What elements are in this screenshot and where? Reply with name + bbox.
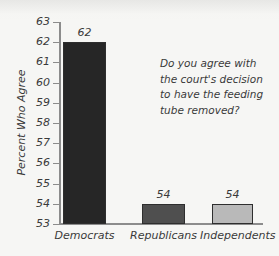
bar-democrats[interactable] [63, 42, 106, 224]
y-axis-tick-label-text: 63 [24, 16, 50, 27]
y-axis-tick-mark [53, 83, 61, 84]
y-axis-tick-label-text: 60 [24, 77, 50, 88]
y-axis-tick-mark [53, 62, 61, 63]
y-axis-tick-label: 61 [22, 56, 50, 67]
y-axis-tick-label-text: 55 [24, 178, 50, 189]
bar-chart-figure: Percent Who Agree 5354555657585960616263… [0, 0, 279, 256]
y-axis-tick-label: 60 [22, 77, 50, 88]
y-axis-tick-mark [53, 123, 61, 124]
bar-independents[interactable] [212, 204, 253, 224]
y-axis-tick-label: 63 [22, 16, 50, 27]
y-axis-tick-mark [53, 143, 61, 144]
bar-republicans[interactable] [142, 204, 185, 224]
y-axis-tick-label-text: 57 [24, 137, 50, 148]
bar-value-label-republicans: 54 [142, 188, 185, 201]
y-axis-tick-mark [53, 22, 61, 23]
y-axis-tick-mark [53, 103, 61, 104]
y-axis-tick-label-text: 62 [24, 36, 50, 47]
y-axis-tick-label: 62 [22, 36, 50, 47]
question-annotation: Do you agree with the court's decision t… [160, 56, 272, 118]
y-axis-tick-label-text: 58 [24, 117, 50, 128]
y-axis-tick-label: 58 [22, 117, 50, 128]
y-axis-tick-label-text: 54 [24, 198, 50, 209]
y-axis-tick-mark [53, 184, 61, 185]
bar-value-label-democrats: 62 [63, 26, 106, 39]
y-axis-tick-label: 53 [22, 218, 50, 229]
y-axis-tick-mark [53, 224, 61, 225]
y-axis-tick-label: 55 [22, 178, 50, 189]
bar-value-label-independents: 54 [212, 188, 253, 201]
y-axis-tick-mark [53, 163, 61, 164]
y-axis-tick-label: 54 [22, 198, 50, 209]
y-axis-tick-label-text: 59 [24, 97, 50, 108]
y-axis-tick-label-text: 61 [24, 56, 50, 67]
y-axis-tick-label: 56 [22, 157, 50, 168]
y-axis-tick-mark [53, 204, 61, 205]
x-axis-category-label-republicans: Republicans [130, 229, 197, 242]
x-axis-category-label-democrats: Democrats [51, 229, 118, 242]
y-axis-tick-label-text: 53 [24, 218, 50, 229]
y-axis-tick-label-text: 56 [24, 157, 50, 168]
y-axis-tick-label: 59 [22, 97, 50, 108]
y-axis-tick-label: 57 [22, 137, 50, 148]
y-axis-tick-mark [53, 42, 61, 43]
x-axis-category-label-independents: Independents [200, 229, 265, 242]
